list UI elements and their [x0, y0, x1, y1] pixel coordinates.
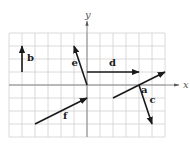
- y-axis-label: y: [84, 9, 91, 20]
- vector-label-c: c: [150, 94, 156, 105]
- vector-label-d: d: [109, 57, 116, 68]
- vector-label-b: b: [27, 52, 34, 63]
- vector-label-e: e: [72, 57, 78, 68]
- x-axis-label: x: [183, 79, 189, 90]
- vector-label-f: f: [63, 110, 68, 121]
- vector-diagram: xy abcdef: [0, 0, 190, 146]
